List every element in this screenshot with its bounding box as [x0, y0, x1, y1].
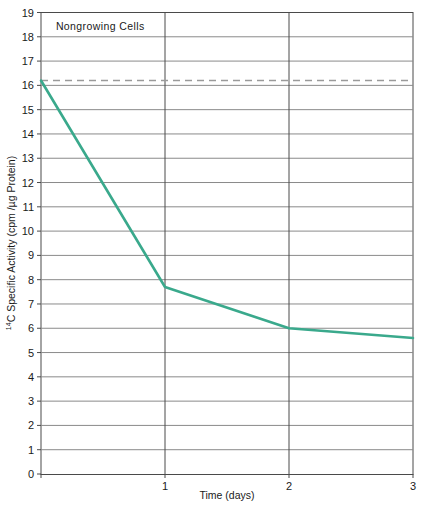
x-tick-label: 2: [286, 480, 292, 492]
chart-figure: 012345678910111213141516171819 123 Nongr…: [0, 0, 428, 511]
plot-panel: [41, 13, 413, 475]
y-tick-label: 15: [22, 104, 34, 116]
y-tick-label: 10: [22, 225, 34, 237]
y-tick-label: 16: [22, 79, 34, 91]
y-tick-label: 11: [23, 201, 34, 213]
svg-text:14C Specific Activity (cpm /µg: 14C Specific Activity (cpm /µg Protein): [5, 156, 17, 330]
x-axis-title: Time (days): [199, 489, 254, 501]
y-tick-label: 1: [28, 444, 34, 456]
y-tick-label: 13: [22, 152, 34, 164]
y-tick-label: 7: [28, 298, 34, 310]
y-tick-label: 12: [22, 177, 34, 189]
y-axis-title-main: C Specific Activity (cpm /µg Protein): [5, 156, 17, 323]
y-axis-title: 14C Specific Activity (cpm /µg Protein): [5, 156, 17, 330]
y-tick-label: 19: [22, 7, 34, 19]
line-chart-svg: 012345678910111213141516171819 123 Nongr…: [0, 0, 428, 511]
y-tick-label: 2: [28, 419, 34, 431]
y-tick-label: 18: [22, 31, 34, 43]
y-tick-label: 17: [22, 55, 34, 67]
x-tick-label: 3: [410, 480, 416, 492]
y-tick-label: 8: [28, 274, 34, 286]
x-tick-label: 1: [162, 480, 168, 492]
y-tick-label: 6: [28, 322, 34, 334]
y-tick-label: 5: [28, 347, 34, 359]
y-tick-label: 0: [28, 468, 34, 480]
y-axis-title-superscript: 14: [5, 322, 12, 330]
y-tick-label: 3: [28, 395, 34, 407]
y-tick-label: 9: [28, 249, 34, 261]
y-tick-label: 4: [28, 371, 34, 383]
y-tick-label: 14: [22, 128, 34, 140]
panel-title: Nongrowing Cells: [56, 20, 145, 32]
